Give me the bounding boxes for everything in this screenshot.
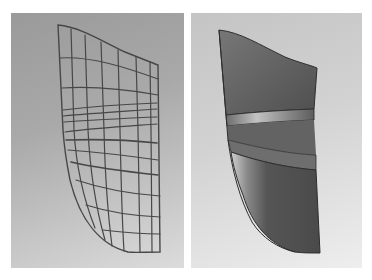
shaded-surface [0, 0, 372, 280]
